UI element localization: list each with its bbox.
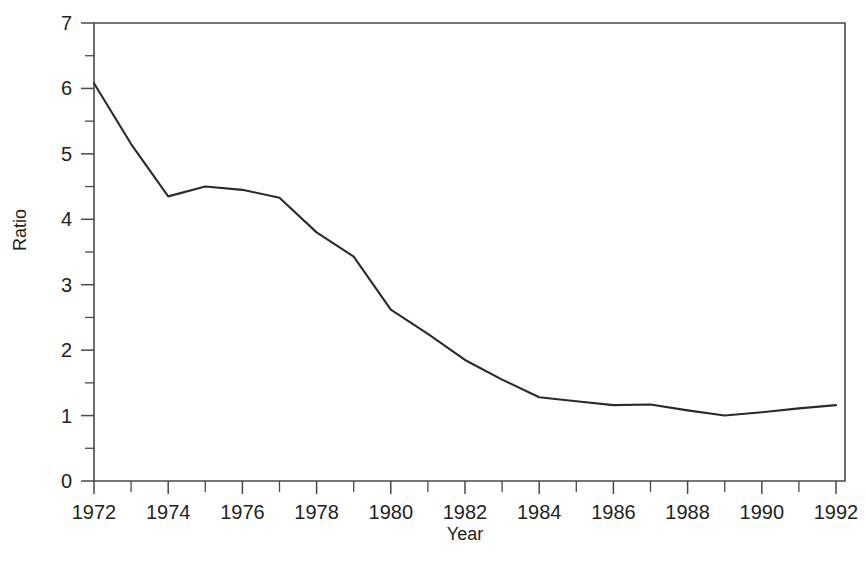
line-chart: 01234567 1972197419761978198019821984198… (0, 0, 866, 568)
y-tick-label: 4 (61, 208, 72, 230)
y-tick-label: 5 (61, 143, 72, 165)
x-tick-label: 1974 (146, 501, 191, 523)
y-tick-label: 3 (61, 274, 72, 296)
y-tick-label: 2 (61, 339, 72, 361)
y-tick-label: 1 (61, 405, 72, 427)
y-axis-title: Ratio (10, 209, 30, 251)
x-axis-title: Year (447, 524, 483, 544)
x-tick-label: 1980 (369, 501, 414, 523)
x-tick-label: 1982 (443, 501, 488, 523)
x-axis-tick-labels: 1972197419761978198019821984198619881990… (72, 501, 859, 523)
y-tick-label: 0 (61, 470, 72, 492)
chart-container: 01234567 1972197419761978198019821984198… (0, 0, 866, 568)
x-tick-label: 1986 (591, 501, 636, 523)
x-tick-label: 1984 (517, 501, 562, 523)
x-tick-label: 1976 (220, 501, 265, 523)
x-tick-label: 1990 (740, 501, 785, 523)
x-tick-label: 1988 (665, 501, 710, 523)
x-tick-label: 1992 (814, 501, 859, 523)
y-tick-label: 7 (61, 12, 72, 34)
chart-background (0, 0, 866, 568)
x-tick-label: 1978 (294, 501, 339, 523)
x-tick-label: 1972 (72, 501, 117, 523)
y-tick-label: 6 (61, 77, 72, 99)
